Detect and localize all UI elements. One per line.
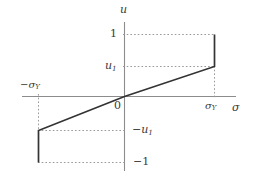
- tick-label-sigma-y-positive: σY: [205, 101, 216, 112]
- tick-label-sigma-y-negative-subscript: Y: [35, 83, 40, 91]
- tick-label-negative-u1-symbol: −u: [132, 123, 148, 136]
- tick-label-negative-u1: −u1: [132, 124, 153, 136]
- tick-label-sigma-y-positive-subscript: Y: [212, 104, 217, 112]
- tick-label-u1-subscript: 1: [112, 64, 117, 73]
- tick-label-u-one: 1: [110, 28, 117, 39]
- tick-label-sigma-y-negative: −σY: [20, 80, 40, 91]
- response-curve: [39, 35, 215, 163]
- x-axis-label: σ: [232, 102, 240, 113]
- tick-label-u1: u1: [105, 60, 117, 72]
- tick-label-sigma-y-negative-symbol: −σ: [20, 79, 35, 90]
- tick-label-u-negative-one: −1: [133, 156, 149, 167]
- y-axis-label: u: [120, 4, 127, 15]
- origin-label: 0: [114, 100, 121, 111]
- tick-label-negative-u1-subscript: 1: [148, 128, 153, 137]
- tick-label-sigma-y-positive-symbol: σ: [205, 100, 212, 111]
- figure-canvas: u σ 1 u1 −u1 −1 0 σY −σY: [0, 0, 254, 177]
